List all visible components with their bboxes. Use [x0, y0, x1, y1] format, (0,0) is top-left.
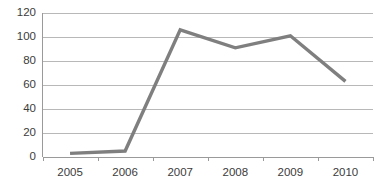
chart-canvas: 020406080100120 200520062007200820092010: [0, 0, 381, 191]
gridlines: [43, 14, 374, 158]
y-axis-tick-label: 0: [30, 150, 36, 162]
x-axis-tick-label: 2006: [112, 166, 138, 178]
x-axis-tick-labels: 200520062007200820092010: [57, 166, 358, 178]
line-chart: 020406080100120 200520062007200820092010: [0, 0, 381, 191]
y-axis-tick-label: 20: [23, 126, 36, 138]
y-axis-tick-label: 120: [17, 6, 36, 18]
y-axis-tick-label: 40: [23, 102, 36, 114]
y-axis-tick-label: 60: [23, 78, 36, 90]
y-axis-tick-labels: 020406080100120: [17, 6, 36, 162]
y-axis-tick-label: 100: [17, 30, 36, 42]
x-axis-tick-label: 2005: [57, 166, 83, 178]
x-axis-tick-label: 2008: [222, 166, 248, 178]
x-axis-tick-label: 2009: [278, 166, 304, 178]
data-series-line: [70, 30, 345, 154]
x-axis-tick-label: 2007: [167, 166, 193, 178]
y-axis-tick-label: 80: [23, 54, 36, 66]
x-axis-tick-label: 2010: [333, 166, 359, 178]
